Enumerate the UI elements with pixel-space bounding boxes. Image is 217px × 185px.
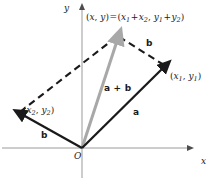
point-a-x: x — [174, 71, 179, 81]
sum-label-rhs-close: ) — [181, 12, 185, 22]
axis-y-label: y — [64, 4, 69, 13]
vector-b-label: b — [41, 131, 48, 140]
sum-label-y2: y — [172, 12, 177, 22]
point-b-close: ) — [51, 105, 55, 115]
point-a-y-sub: 1 — [194, 75, 198, 83]
sum-label-x1-sub: 1 — [126, 16, 130, 24]
sum-label-x2-sub: 2 — [144, 16, 148, 24]
point-b-y-sub: 2 — [47, 109, 51, 117]
dashed-side-b-translated — [121, 38, 164, 65]
point-a-label: (x1, y1) — [170, 72, 201, 81]
vector-a-label: a — [133, 108, 139, 117]
sum-label-y1-sub: 1 — [159, 16, 163, 24]
sum-label-y2-sub: 2 — [177, 16, 181, 24]
point-a-x-sub: 1 — [179, 75, 183, 83]
point-b-x: x — [27, 105, 32, 115]
vector-addition-figure: (x, y)=(x1+x2, y1+y2) (x1, y1) (x2, y2) … — [0, 0, 217, 185]
sum-label-plus1: + — [130, 12, 139, 22]
point-b-x-sub: 2 — [32, 109, 36, 117]
point-a-y: y — [188, 71, 193, 81]
sum-label-plus2: + — [163, 12, 172, 22]
point-b-label: (x2, y2) — [23, 106, 54, 115]
origin-label: O — [74, 152, 81, 161]
sum-point-label: (x, y)=(x1+x2, y1+y2) — [86, 13, 184, 22]
vector-sum-label: a + b — [104, 84, 131, 93]
axis-x-label: x — [201, 157, 206, 166]
point-b-y: y — [41, 105, 46, 115]
vector-b-arrow — [23, 115, 82, 148]
vector-b-dashed-label: b — [146, 39, 153, 48]
dashed-side-a-translated — [20, 38, 115, 112]
point-a-close: ) — [198, 71, 202, 81]
